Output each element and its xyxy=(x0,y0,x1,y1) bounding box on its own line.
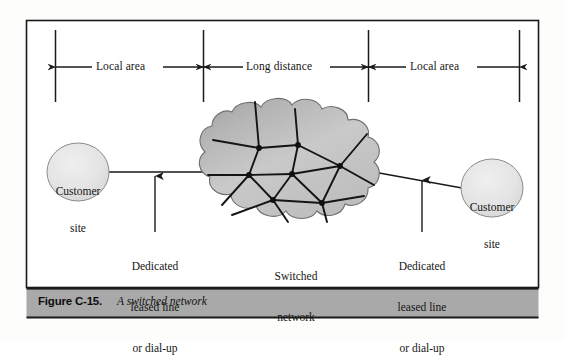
customer-site-right-label: Customer site xyxy=(456,176,528,275)
annotation-right-link-line1: Dedicated xyxy=(379,260,465,274)
customer-site-left-label-line1: Customer xyxy=(42,185,114,197)
annotation-right-link: Dedicated leased line or dial-up xyxy=(379,233,465,359)
span-label-local-area-left: Local area xyxy=(96,60,145,73)
annotation-right-link-line2: leased line xyxy=(379,301,465,315)
caption-figure-number: Figure C-15. xyxy=(38,295,102,308)
switched-network-label-line2: network xyxy=(256,311,336,325)
caption-figure-title: A switched network xyxy=(117,295,207,308)
customer-site-right-label-line2: site xyxy=(456,238,528,250)
switched-network-label: Switched network xyxy=(256,243,336,352)
span-label-local-area-right: Local area xyxy=(410,60,459,73)
switched-network-label-line1: Switched xyxy=(256,270,336,284)
annotation-right-link-line3: or dial-up xyxy=(379,342,465,356)
customer-site-right-label-line1: Customer xyxy=(456,201,528,213)
customer-site-left-label-line2: site xyxy=(42,222,114,234)
customer-site-left-label: Customer site xyxy=(42,160,114,259)
annotation-left-link-line3: or dial-up xyxy=(112,342,198,356)
annotation-left-link-line1: Dedicated xyxy=(112,260,198,274)
span-label-long-distance: Long distance xyxy=(246,60,312,73)
